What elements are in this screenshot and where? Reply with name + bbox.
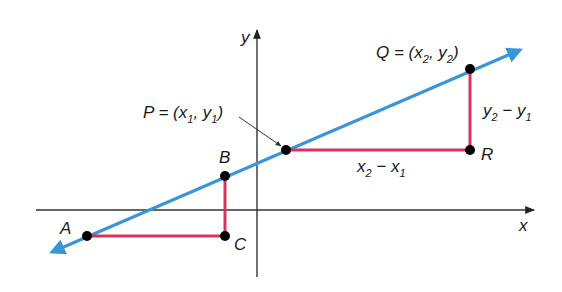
slope-diagram: x y A B C R P = (x1, y1) Q = (x2, y2) y2… xyxy=(0,0,562,292)
point-q xyxy=(465,64,475,74)
label-p-coords: P = (x1, y1) xyxy=(143,103,223,125)
label-a: A xyxy=(59,219,71,238)
label-rise: y2 − y1 xyxy=(482,101,532,123)
label-q-coords: Q = (x2, y2) xyxy=(376,43,459,65)
label-run: x2 − x1 xyxy=(356,157,406,179)
p-leader-arrow xyxy=(239,117,281,146)
label-b: B xyxy=(219,148,230,167)
x-axis-label: x xyxy=(518,216,528,235)
y-axis-label: y xyxy=(240,28,251,47)
label-r: R xyxy=(481,145,493,164)
point-a xyxy=(82,231,92,241)
point-r xyxy=(465,145,475,155)
point-c xyxy=(220,231,230,241)
point-b xyxy=(220,171,230,181)
point-p xyxy=(281,145,291,155)
label-c: C xyxy=(234,235,247,254)
